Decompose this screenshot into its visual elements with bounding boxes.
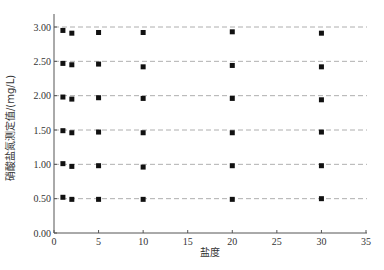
data-point	[69, 164, 74, 169]
data-point	[141, 96, 146, 101]
y-tick-label: 1.00	[34, 159, 52, 170]
x-tick-label: 15	[183, 236, 193, 247]
data-point	[96, 95, 101, 100]
y-tick-label: 2.00	[34, 90, 52, 101]
data-point	[230, 29, 235, 34]
data-point	[69, 130, 74, 135]
data-point	[96, 163, 101, 168]
x-tick-label: 0	[52, 236, 57, 247]
data-point	[69, 62, 74, 67]
x-tick-label: 25	[272, 236, 282, 247]
y-tick-label: 1.50	[34, 125, 52, 136]
data-point	[230, 197, 235, 202]
data-point	[60, 95, 65, 100]
data-point	[141, 130, 146, 135]
data-point	[60, 28, 65, 33]
data-point	[319, 97, 324, 102]
data-point	[60, 161, 65, 166]
x-tick-label: 5	[96, 236, 101, 247]
data-point	[96, 130, 101, 135]
y-tick-label: 2.50	[34, 56, 52, 67]
data-point	[96, 62, 101, 67]
data-point	[141, 197, 146, 202]
data-point	[319, 31, 324, 36]
x-tick-label: 35	[361, 236, 371, 247]
scatter-chart: 05101520253035 0.000.501.001.502.002.503…	[0, 0, 384, 270]
y-tick-label: 0.00	[34, 228, 52, 239]
y-tick-label: 3.00	[34, 22, 52, 33]
data-point	[96, 197, 101, 202]
data-point	[69, 97, 74, 102]
data-point	[60, 195, 65, 200]
data-point	[319, 196, 324, 201]
data-point	[319, 64, 324, 69]
data-point	[230, 163, 235, 168]
data-point	[141, 64, 146, 69]
y-ticks: 0.000.501.001.502.002.503.00	[34, 22, 58, 239]
data-point	[141, 165, 146, 170]
x-tick-label: 10	[138, 236, 148, 247]
data-point	[141, 30, 146, 35]
x-tick-label: 20	[227, 236, 237, 247]
data-point	[60, 61, 65, 66]
data-point	[230, 63, 235, 68]
x-axis-title: 盐度	[200, 246, 220, 258]
data-point	[60, 128, 65, 133]
data-points	[60, 28, 324, 202]
y-axis-title: 硝酸盐氮测定值/(mg/L)	[4, 75, 16, 181]
data-point	[96, 30, 101, 35]
reference-lines	[54, 27, 367, 199]
data-point	[319, 163, 324, 168]
data-point	[230, 130, 235, 135]
data-point	[319, 130, 324, 135]
data-point	[69, 197, 74, 202]
data-point	[69, 31, 74, 36]
data-point	[230, 96, 235, 101]
y-tick-label: 0.50	[34, 193, 52, 204]
x-tick-label: 30	[316, 236, 326, 247]
